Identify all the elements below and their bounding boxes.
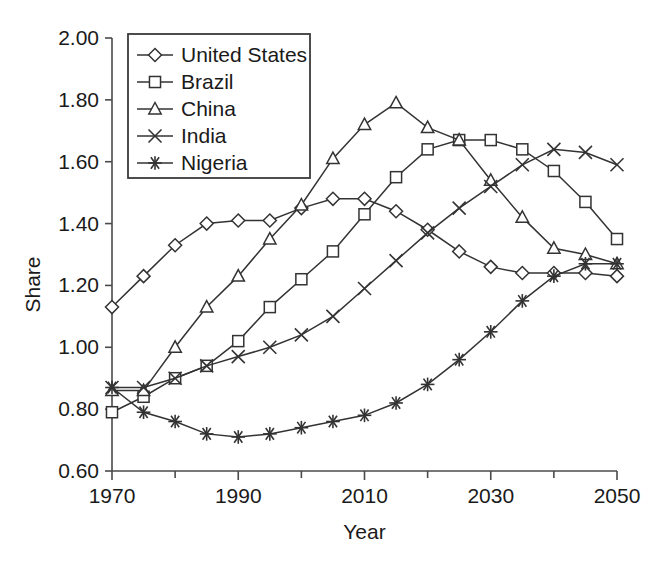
y-tick-label: 1.40 — [58, 212, 99, 235]
data-point-marker — [358, 409, 372, 423]
line-chart-figure: 0.600.801.001.201.401.601.802.0019701990… — [0, 0, 667, 570]
x-tick-label: 2050 — [594, 484, 641, 507]
data-point-marker — [326, 415, 340, 429]
x-axis-title: Year — [343, 520, 385, 543]
legend: United StatesBrazilChinaIndiaNigeria — [128, 34, 310, 178]
y-tick-label: 1.00 — [58, 335, 99, 358]
y-tick-label: 1.80 — [58, 88, 99, 111]
y-tick-label: 0.60 — [58, 459, 99, 482]
data-point-marker — [516, 158, 529, 171]
legend-label: United States — [181, 43, 307, 66]
series-line — [112, 149, 617, 387]
data-point-marker — [548, 165, 559, 176]
data-point-marker — [358, 282, 371, 295]
data-point-marker — [611, 234, 622, 245]
data-point-marker — [326, 192, 339, 205]
data-point-marker — [106, 407, 117, 418]
x-tick-label: 1990 — [215, 484, 262, 507]
y-tick-label: 2.00 — [58, 26, 99, 49]
y-tick-label: 1.20 — [58, 273, 99, 296]
data-point-marker — [484, 260, 497, 273]
data-point-marker — [580, 196, 591, 207]
x-tick-label: 2030 — [467, 484, 514, 507]
data-point-marker — [232, 214, 245, 227]
data-point-marker — [358, 192, 371, 205]
data-point-marker — [264, 302, 275, 313]
data-point-marker — [390, 96, 402, 107]
data-point-marker — [422, 144, 433, 155]
data-point-marker — [453, 245, 466, 258]
data-point-marker — [263, 214, 276, 227]
data-point-marker — [611, 270, 624, 283]
data-point-marker — [359, 209, 370, 220]
y-axis-title: Share — [21, 256, 44, 312]
legend-label: China — [181, 97, 236, 120]
data-point-marker — [263, 427, 277, 441]
data-point-marker — [390, 254, 403, 267]
x-tick-label: 2010 — [341, 484, 388, 507]
legend-label: Brazil — [181, 70, 234, 93]
data-point-marker — [296, 274, 307, 285]
data-point-marker — [295, 421, 309, 435]
series-line — [112, 140, 617, 412]
legend-label: Nigeria — [181, 151, 248, 174]
data-point-marker — [232, 350, 245, 363]
data-point-marker — [326, 310, 339, 323]
data-point-marker — [168, 415, 182, 429]
data-point-marker — [421, 378, 435, 392]
legend-marker-square-icon — [149, 76, 160, 87]
y-tick-label: 1.60 — [58, 150, 99, 173]
y-tick-label: 0.80 — [58, 397, 99, 420]
data-point-marker — [485, 135, 496, 146]
chart-canvas: 0.600.801.001.201.401.601.802.0019701990… — [0, 0, 667, 570]
data-point-marker — [200, 427, 214, 441]
data-point-marker — [137, 405, 151, 419]
data-point-marker — [421, 121, 433, 132]
data-point-marker — [358, 118, 370, 129]
data-point-marker — [517, 144, 528, 155]
data-point-marker — [453, 202, 466, 215]
data-point-marker — [390, 205, 403, 218]
legend-label: India — [181, 124, 227, 147]
data-point-marker — [516, 267, 529, 280]
data-point-marker — [389, 396, 403, 410]
data-point-marker — [231, 430, 245, 444]
data-point-marker — [263, 341, 276, 354]
data-point-marker — [233, 336, 244, 347]
series-india — [106, 143, 624, 394]
series-nigeria — [105, 257, 624, 444]
data-point-marker — [611, 158, 624, 171]
x-tick-label: 1970 — [89, 484, 136, 507]
data-point-marker — [295, 199, 307, 210]
data-point-marker — [295, 328, 308, 341]
data-point-marker — [327, 246, 338, 257]
data-point-marker — [391, 172, 402, 183]
data-point-marker — [200, 217, 213, 230]
